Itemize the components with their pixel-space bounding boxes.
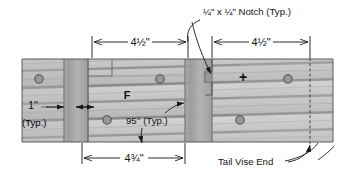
- benchtop-board: [18, 46, 340, 155]
- face-mark-label: F: [124, 89, 131, 101]
- cross-band-right: [185, 59, 212, 142]
- thickness-typ-label: (Typ.): [22, 117, 47, 128]
- dowel-hole: [156, 75, 164, 83]
- dowel-hole: [284, 75, 292, 83]
- tail-vise-leader-tail: [285, 143, 318, 161]
- plus-mark-label: +: [239, 69, 247, 85]
- dimension-label-top-right: 4½": [251, 36, 270, 48]
- notch-label: ¼" x ¼" Notch (Typ.): [203, 6, 291, 17]
- thickness-value-label: 1": [28, 99, 38, 111]
- dowel-hole: [35, 75, 43, 83]
- dowel-hole: [103, 116, 111, 124]
- tail-vise-callout: Tail Vise End: [218, 143, 334, 167]
- dimension-top-left: 4½": [92, 36, 188, 58]
- dimension-bottom: 4¾": [82, 143, 185, 164]
- notch-leader-hook: [188, 20, 201, 42]
- dowel-hole: [236, 116, 244, 124]
- cross-band-left-body: [64, 59, 88, 142]
- angle-label: 95° (Typ.): [126, 115, 168, 126]
- dimension-top-right: 4½": [212, 36, 310, 58]
- dimension-label-bottom: 4¾": [124, 152, 143, 164]
- wood-grain-group: [18, 46, 340, 155]
- benchtop-diagram: 4½" 4½" 4¾" 1" (Typ.): [0, 0, 351, 178]
- diagram-canvas: 4½" 4½" 4¾" 1" (Typ.): [0, 0, 351, 178]
- tail-vise-label: Tail Vise End: [218, 156, 273, 167]
- tail-vise-leader-upper: [318, 146, 334, 160]
- dimension-label-top-left: 4½": [130, 36, 149, 48]
- segment-right-shade: [240, 59, 333, 142]
